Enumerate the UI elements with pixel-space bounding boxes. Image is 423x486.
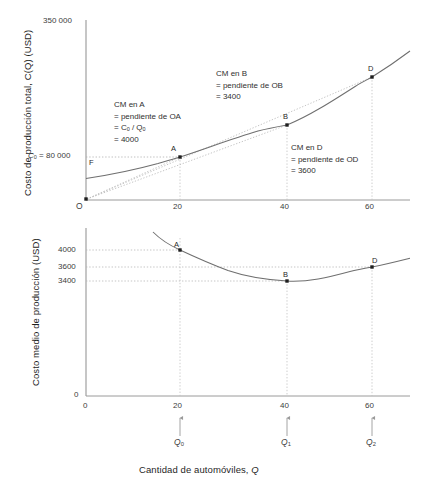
quantity-marker-q0: Q0 — [174, 437, 184, 448]
bottom-chart-xtick-0: 0 — [83, 401, 87, 411]
quantity-marker-q1: Q1 — [281, 437, 291, 448]
bottom-chart-label-a: A — [174, 240, 179, 249]
annotation-d-line3: = 3600 — [291, 165, 358, 177]
bottom-chart-group — [86, 228, 410, 436]
bottom-chart-label-d: D — [372, 256, 377, 265]
bottom-chart-xtick-20: 20 — [173, 401, 182, 411]
bottom-chart-ytick-0: 0 — [74, 390, 78, 400]
x-axis-title-symbol: Q — [251, 464, 259, 475]
bottom-chart-point-d — [370, 265, 373, 268]
bottom-chart-ytick-4000: 4000 — [58, 245, 76, 255]
annotation-cm-en-d: CM en D = pendiente de OD = 3600 — [291, 142, 358, 177]
q1-symbol: Q — [281, 437, 288, 447]
annotation-a-line4: = 4000 — [114, 134, 181, 146]
c0-value: = 80 000 — [37, 151, 71, 160]
top-chart-y-axis-title: Costo de producción total, C(Q) (USD) — [22, 30, 34, 196]
annotation-b-line1: CM en B — [216, 68, 283, 80]
q2-subscript: 2 — [373, 441, 376, 447]
chart-canvas — [0, 0, 423, 486]
top-chart-point-a — [178, 155, 181, 158]
annotation-d-line2: = pendiente de OD — [291, 154, 358, 166]
quantity-marker-q2: Q2 — [366, 437, 376, 448]
top-chart-xtick-40: 40 — [280, 202, 289, 212]
q0-symbol: Q — [174, 437, 181, 447]
annotation-cm-en-b: CM en B = pendiente de OB = 3400 — [216, 68, 283, 103]
annotation-a-line2: = pendiente de OA — [114, 111, 181, 123]
bottom-chart-xtick-40: 40 — [280, 401, 289, 411]
top-chart-origin-label: O — [76, 201, 83, 212]
annotation-a-q: / Q — [130, 123, 143, 132]
annotation-d-line1: CM en D — [291, 142, 358, 154]
annotation-b-line2: = pendiente de OB — [216, 80, 283, 92]
q1-subscript: 1 — [288, 441, 291, 447]
annotation-a-line1: CM en A — [114, 99, 181, 111]
top-chart-label-f: F — [89, 158, 94, 167]
q0-subscript: 0 — [181, 441, 184, 447]
annotation-a-line3: = C0 / Q0 — [114, 122, 181, 134]
top-chart-ytick-350000: 350 000 — [43, 16, 72, 26]
bottom-chart-xtick-60: 60 — [365, 401, 374, 411]
annotation-cm-en-a: CM en A = pendiente de OA = C0 / Q0 = 40… — [114, 99, 181, 146]
bottom-chart-label-b: B — [283, 270, 288, 279]
top-chart-label-d: D — [368, 64, 373, 73]
economics-cost-figure: Costo de producción total, C(Q) (USD) 35… — [0, 0, 423, 486]
annotation-a-c: = C — [114, 123, 127, 132]
annotation-b-line3: = 3400 — [216, 91, 283, 103]
bottom-chart-ytick-3400: 3400 — [58, 276, 76, 286]
bottom-chart-y-axis-title: Costo medio de producción (USD) — [30, 238, 42, 386]
top-chart-point-d — [370, 75, 373, 78]
bottom-chart-x-axis-title: Cantidad de automóviles, Q — [139, 464, 259, 476]
top-chart-point-o — [84, 197, 87, 200]
top-chart-point-b — [285, 123, 288, 126]
bottom-chart-ytick-3600: 3600 — [58, 262, 76, 272]
top-chart-xtick-20: 20 — [173, 202, 182, 212]
top-chart-label-b: B — [283, 112, 288, 121]
top-chart-xtick-60: 60 — [365, 202, 374, 212]
bottom-chart-point-b — [285, 279, 288, 282]
annotation-a-q-sub: 0 — [143, 126, 146, 132]
x-axis-title-text: Cantidad de automóviles, — [139, 464, 251, 475]
top-chart-ytick-c0: C0 = 80 000 — [28, 151, 70, 161]
q2-symbol: Q — [366, 437, 373, 447]
